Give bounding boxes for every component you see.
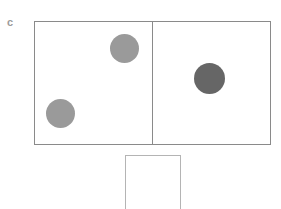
dark-gray-disc: [194, 63, 225, 94]
two-compartment-arena: [34, 21, 271, 145]
figure-panel-c: c: [0, 0, 281, 209]
panel-label-c: c: [7, 17, 13, 28]
light-gray-disc-upper: [110, 34, 139, 63]
object-layer: [35, 22, 270, 144]
light-gray-disc-lower: [46, 99, 75, 128]
lower-partial-box: [125, 155, 181, 209]
